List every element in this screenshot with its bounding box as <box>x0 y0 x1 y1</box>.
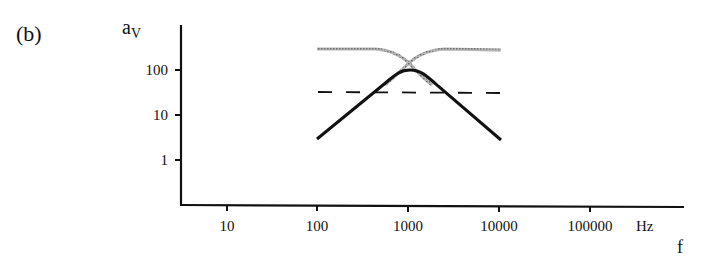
gray-asymptotes <box>317 49 501 85</box>
bandpass-response-line <box>317 70 501 140</box>
reference-level-line <box>318 92 501 93</box>
chart-plot <box>0 0 704 264</box>
